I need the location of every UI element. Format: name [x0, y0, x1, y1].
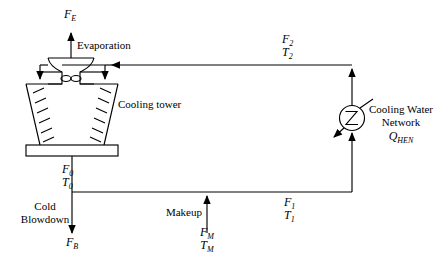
- label-evaporation-text: Evaporation: [77, 40, 131, 52]
- label-network-line2: Network: [366, 117, 436, 129]
- label-network-duty-QHEN: QHEN: [366, 130, 436, 146]
- label-cooling-tower: Cooling tower: [118, 99, 181, 111]
- return-line-F2: [40, 65, 352, 79]
- label-blowdown-line2: Blowdown: [5, 214, 85, 226]
- label-blowdown-line1: Cold: [5, 201, 85, 213]
- label-supply-temp-T1: T1: [284, 209, 295, 225]
- label-cold-water-temp-T0: T0: [62, 176, 73, 192]
- diagram-canvas: FE Evaporation Cooling tower F2 T2 F0 T0…: [0, 0, 436, 262]
- label-return-temp-T2: T2: [282, 46, 293, 62]
- label-evaporation-stream: FE: [64, 8, 76, 24]
- tower-fill-hatch-left: [33, 88, 54, 142]
- label-blowdown-stream-FB: FB: [66, 236, 78, 252]
- tower-fill-hatch-right: [90, 88, 111, 142]
- basin-icon: [26, 145, 118, 156]
- label-makeup-temp-TM: TM: [185, 239, 229, 255]
- label-makeup-text: Makeup: [125, 207, 202, 219]
- fan-icon: [61, 76, 81, 82]
- label-network-line1: Cooling Water: [366, 104, 436, 116]
